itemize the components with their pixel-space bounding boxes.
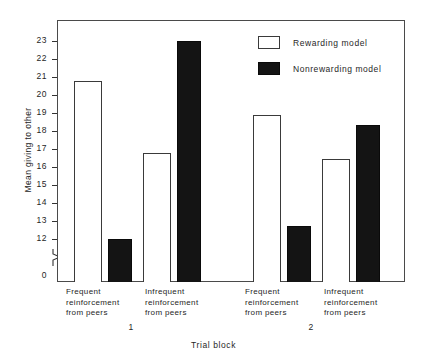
y-axis-ticks: 23 22 21 20 19 18 17 16 xyxy=(0,0,57,290)
legend-label-nonrewarding: Nonrewarding model xyxy=(293,64,381,74)
y-tick-label-20: 20 xyxy=(37,89,47,99)
cat-line: from peers xyxy=(245,308,298,319)
y-tick-label-17: 17 xyxy=(37,143,47,153)
x-category-label-block1-infrequent: Infrequent reinforcement from peers xyxy=(145,287,198,319)
x-category-label-block1-frequent: Frequent reinforcement from peers xyxy=(66,287,119,319)
bar-rewarding-block2-frequent[interactable] xyxy=(253,115,281,282)
bar-nonrewarding-block2-infrequent[interactable] xyxy=(356,125,380,282)
y-tick-label-16: 16 xyxy=(37,161,47,171)
legend-swatch-filled-icon xyxy=(258,62,280,75)
trial-block-label-1: 1 xyxy=(116,322,146,332)
bar-rewarding-block1-infrequent[interactable] xyxy=(143,153,171,282)
y-tick-label-23: 23 xyxy=(37,35,47,45)
bar-nonrewarding-block1-infrequent[interactable] xyxy=(177,41,201,282)
bar-chart-figure: Mean giving to other 23 22 21 20 19 18 1… xyxy=(0,0,427,358)
cat-line: Infrequent xyxy=(324,287,377,298)
y-tick-label-0: 0 xyxy=(42,270,47,280)
x-axis-title: Trial block xyxy=(0,340,427,350)
x-category-label-block2-infrequent: Infrequent reinforcement from peers xyxy=(324,287,377,319)
bar-nonrewarding-block2-frequent[interactable] xyxy=(287,226,311,282)
bar-rewarding-block1-frequent[interactable] xyxy=(74,81,102,282)
trial-block-label-2: 2 xyxy=(296,322,326,332)
y-tick-label-18: 18 xyxy=(37,125,47,135)
legend-swatch-open-icon xyxy=(258,36,280,49)
cat-line: from peers xyxy=(66,308,119,319)
cat-line: Frequent xyxy=(245,287,298,298)
cat-line: reinforcement xyxy=(324,298,377,309)
cat-line: Frequent xyxy=(66,287,119,298)
bar-rewarding-block2-infrequent[interactable] xyxy=(322,159,350,282)
x-category-label-block2-frequent: Frequent reinforcement from peers xyxy=(245,287,298,319)
cat-line: reinforcement xyxy=(145,298,198,309)
cat-line: reinforcement xyxy=(66,298,119,309)
legend-label-rewarding: Rewarding model xyxy=(293,38,367,48)
y-tick-label-13: 13 xyxy=(37,215,47,225)
cat-line: from peers xyxy=(145,308,198,319)
y-tick-label-12: 12 xyxy=(37,233,47,243)
y-tick-label-22: 22 xyxy=(37,53,47,63)
y-tick-label-14: 14 xyxy=(37,197,47,207)
y-tick-label-21: 21 xyxy=(37,71,47,81)
y-tick-label-19: 19 xyxy=(37,107,47,117)
cat-line: Infrequent xyxy=(145,287,198,298)
legend-item-nonrewarding[interactable]: Nonrewarding model xyxy=(258,58,408,79)
bar-nonrewarding-block1-frequent[interactable] xyxy=(108,239,132,282)
legend-item-rewarding[interactable]: Rewarding model xyxy=(258,32,408,53)
cat-line: from peers xyxy=(324,308,377,319)
cat-line: reinforcement xyxy=(245,298,298,309)
legend: Rewarding model Nonrewarding model xyxy=(258,32,408,84)
y-tick-label-15: 15 xyxy=(37,179,47,189)
